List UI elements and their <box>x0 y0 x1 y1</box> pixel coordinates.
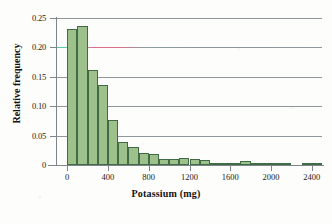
histogram-bar <box>77 26 87 165</box>
y-axis-tick-label: 0.15 <box>32 72 46 82</box>
x-axis-tick <box>312 166 313 171</box>
plot-area <box>57 18 322 165</box>
y-axis-tick <box>50 136 57 137</box>
x-axis-tick <box>108 166 109 171</box>
y-axis-tick-label: 0.25 <box>32 13 46 23</box>
x-axis-tick-label: 2400 <box>303 172 320 182</box>
histogram-bars <box>57 18 322 165</box>
histogram-figure: 00.050.100.150.200.25 040080012001600200… <box>0 0 332 224</box>
y-axis-tick-label: 0.20 <box>32 42 46 52</box>
y-axis-tick <box>50 18 57 19</box>
y-axis-tick-label: 0 <box>42 160 46 170</box>
x-axis-tick <box>271 166 272 171</box>
histogram-bar <box>139 153 149 165</box>
x-axis-tick-label: 1200 <box>181 172 198 182</box>
histogram-bar <box>149 154 159 165</box>
y-axis-tick <box>50 47 57 48</box>
y-axis-tick <box>50 165 57 166</box>
y-axis-title: Relative frequency <box>11 24 22 144</box>
y-axis-line <box>56 17 57 166</box>
x-axis-tick-label: 1600 <box>222 172 239 182</box>
x-axis-title: Potassium (mg) <box>0 188 332 199</box>
x-axis-tick <box>230 166 231 171</box>
histogram-bar <box>67 29 77 165</box>
histogram-bar <box>118 142 128 165</box>
y-axis-tick-label: 0.05 <box>32 131 46 141</box>
x-axis-tick <box>190 166 191 171</box>
x-axis-tick-label: 800 <box>142 172 155 182</box>
histogram-bar <box>179 158 189 165</box>
y-axis-tick <box>50 106 57 107</box>
y-axis-tick <box>50 77 57 78</box>
x-axis-tick-label: 400 <box>102 172 115 182</box>
histogram-bar <box>128 147 138 165</box>
x-axis-tick-label: 2000 <box>263 172 280 182</box>
x-axis-tick <box>149 166 150 171</box>
x-axis-line <box>48 165 324 166</box>
x-axis-tick <box>67 166 68 171</box>
histogram-bar <box>108 120 118 165</box>
y-axis-tick-label: 0.10 <box>32 101 46 111</box>
histogram-bar <box>88 70 98 165</box>
x-axis-tick-label: 0 <box>65 172 69 182</box>
histogram-bar <box>98 85 108 165</box>
